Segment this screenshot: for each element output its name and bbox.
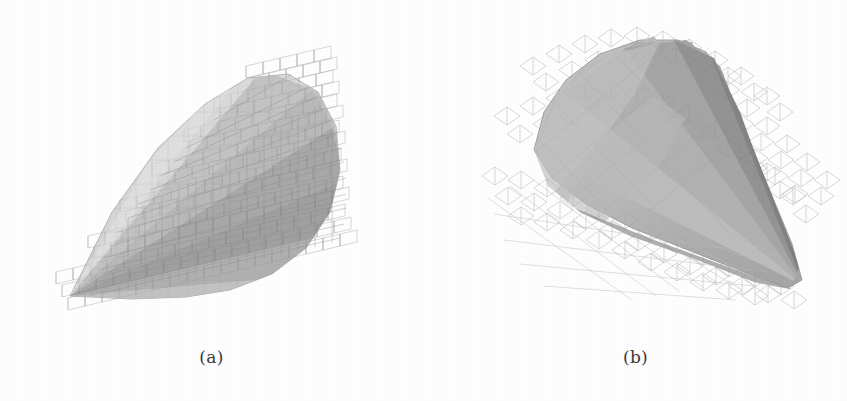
panel-b-render: [424, 0, 847, 345]
panel-a-cone-surface: [70, 70, 352, 304]
panel-a-render: [0, 0, 423, 345]
panel-b-caption: (b): [424, 348, 847, 367]
panel-b-svg: [424, 0, 847, 345]
panel-a-svg: [0, 0, 423, 345]
figure-panel-b: (b): [424, 0, 847, 401]
figure-container: (a): [0, 0, 847, 401]
panel-a-caption: (a): [0, 348, 423, 367]
figure-panel-a: (a): [0, 0, 423, 401]
